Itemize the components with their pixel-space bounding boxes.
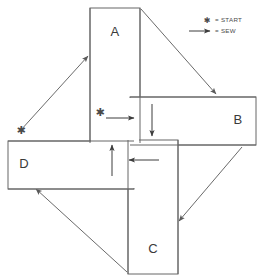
piece-c-label: C	[148, 241, 158, 256]
legend-start-star-icon: ✱	[204, 16, 211, 25]
fabric-piece-d[interactable]: D	[8, 141, 134, 189]
legend-sew-label: = SEW	[215, 27, 236, 34]
start-star-icon-outer: ✱	[16, 124, 25, 137]
legend: ✱ = START = SEW	[189, 16, 242, 34]
piece-b-label: B	[234, 112, 243, 127]
sew-arrow-diagonal-lower-left	[36, 189, 127, 272]
sew-arrow-diagonal-upper-left	[20, 56, 88, 131]
legend-start-label: = START	[215, 16, 242, 23]
start-star-icon-inner: ✱	[95, 106, 104, 119]
overlap-patch-c-d	[129, 142, 177, 188]
fabric-piece-b[interactable]: B	[130, 97, 256, 145]
piece-a-label: A	[111, 24, 120, 39]
sewing-diagram-page: A B C D	[0, 0, 261, 280]
pinwheel-diagram-canvas: A B C D	[0, 0, 261, 280]
piece-d-label: D	[19, 156, 29, 171]
overlap-patch-a-b	[91, 98, 139, 142]
sew-arrow-diagonal-lower-right	[179, 147, 242, 221]
